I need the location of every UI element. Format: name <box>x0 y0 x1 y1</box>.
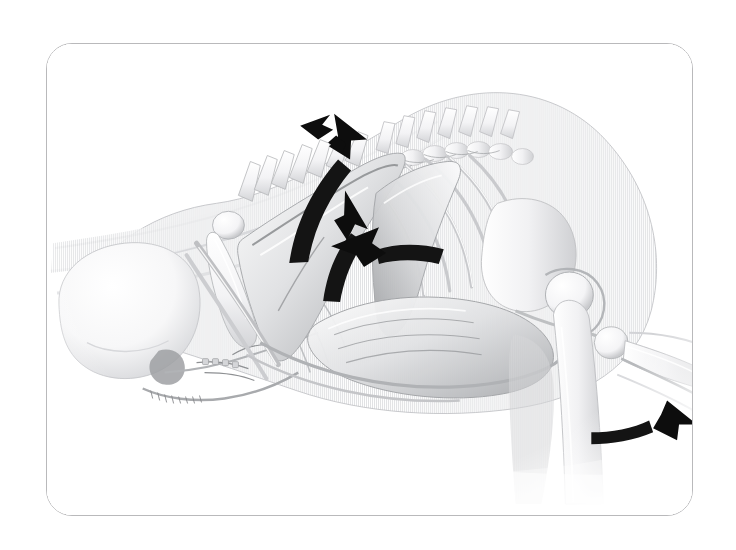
figure-root: quadruped axial and appendicular skeleto… <box>0 0 736 550</box>
anatomical-illustration-svg <box>47 44 692 515</box>
illustration-frame <box>46 43 693 516</box>
